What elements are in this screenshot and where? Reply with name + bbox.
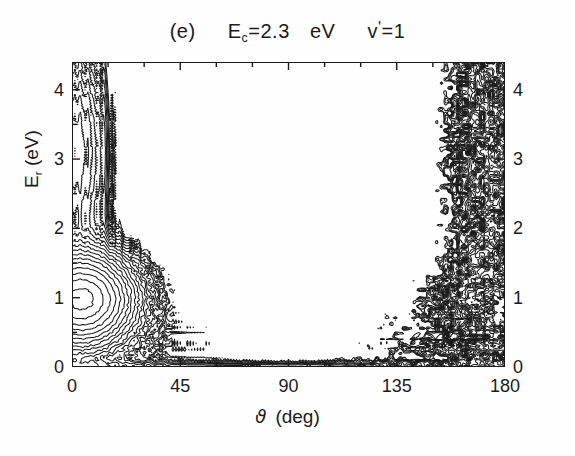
x-axis-title: ϑ(deg) xyxy=(0,406,575,428)
collision-energy-subscript: c xyxy=(242,31,249,45)
x-axis-symbol: ϑ xyxy=(255,406,266,427)
vibrational-symbol: v xyxy=(367,20,378,42)
contour-figure: (e) Ec=2.3 eV v'=1 Er (eV) ϑ(deg) 045901… xyxy=(0,0,575,456)
y-axis-symbol: E xyxy=(21,175,42,188)
collision-energy-symbol: E xyxy=(228,20,242,42)
vibrational-state-label: v'=1 xyxy=(367,20,405,43)
plot-title: (e) Ec=2.3 eV v'=1 xyxy=(0,20,575,43)
y-tick-label-left-1: 1 xyxy=(54,287,64,308)
y-axis-subscript: r xyxy=(31,171,44,175)
collision-energy-unit: eV xyxy=(310,20,335,43)
x-tick-label-135: 135 xyxy=(382,376,412,397)
y-tick-label-left-4: 4 xyxy=(54,79,64,100)
y-tick-label-left-0: 0 xyxy=(54,357,64,378)
x-tick-label-0: 0 xyxy=(67,376,77,397)
collision-energy-value: =2.3 xyxy=(248,20,289,42)
y-tick-label-left-3: 3 xyxy=(54,149,64,170)
y-axis-unit: (eV) xyxy=(21,130,42,166)
y-tick-label-right-1: 1 xyxy=(513,287,523,308)
vibrational-prime: ' xyxy=(378,19,382,36)
x-tick-label-180: 180 xyxy=(490,376,520,397)
x-tick-label-45: 45 xyxy=(170,376,190,397)
y-tick-label-right-3: 3 xyxy=(513,149,523,170)
panel-label: (e) xyxy=(170,20,196,43)
y-tick-label-right-0: 0 xyxy=(513,357,523,378)
y-axis-title: Er (eV) xyxy=(21,79,43,239)
y-tick-label-right-4: 4 xyxy=(513,79,523,100)
y-tick-label-left-2: 2 xyxy=(54,218,64,239)
collision-energy-label: Ec=2.3 xyxy=(228,20,290,43)
plot-area xyxy=(72,62,505,367)
y-tick-label-right-2: 2 xyxy=(513,218,523,239)
vibrational-value: =1 xyxy=(382,20,406,42)
x-tick-label-90: 90 xyxy=(278,376,298,397)
x-axis-unit: (deg) xyxy=(275,406,319,427)
contour-lines xyxy=(72,62,505,367)
